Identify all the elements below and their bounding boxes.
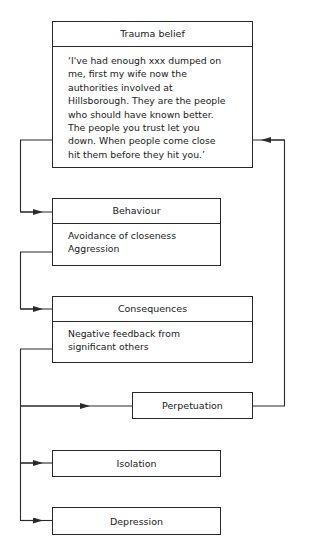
edge-trauma-to-behaviour (21, 140, 53, 212)
isolation-title: Isolation (53, 451, 220, 476)
edge-behaviour-to-consequences (21, 252, 53, 309)
edge-perpetuation-to-trauma (252, 140, 285, 406)
consequences-title: Consequences (53, 297, 252, 322)
consequences-text: Negative feedback from significant other… (53, 322, 252, 354)
trauma-belief-box: Trauma belief ‘I've had enough xxx dumpe… (52, 21, 253, 168)
behaviour-box: Behaviour Avoidance of closeness Aggress… (52, 198, 221, 266)
isolation-box: Isolation (52, 450, 221, 477)
depression-box: Depression (52, 507, 221, 535)
perpetuation-box: Perpetuation (132, 392, 253, 419)
perpetuation-title: Perpetuation (133, 393, 252, 418)
edge-consequences-trunk (21, 349, 53, 521)
trauma-belief-quote: ‘I've had enough xxx dumped on me, first… (53, 47, 252, 161)
consequences-box: Consequences Negative feedback from sign… (52, 296, 253, 363)
behaviour-text: Avoidance of closeness Aggression (53, 224, 220, 256)
depression-title: Depression (53, 508, 220, 534)
behaviour-title: Behaviour (53, 199, 220, 224)
trauma-belief-title: Trauma belief (53, 22, 252, 47)
